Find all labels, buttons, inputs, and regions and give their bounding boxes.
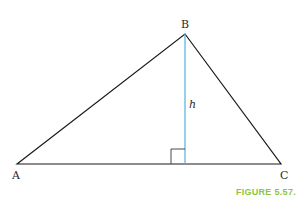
right-angle-marker bbox=[171, 149, 185, 164]
vertex-label-a: A bbox=[11, 169, 21, 182]
altitude-label-h: h bbox=[189, 98, 196, 111]
triangle-diagram: B A C h bbox=[0, 0, 300, 202]
triangle-abc bbox=[17, 34, 281, 164]
figure-caption: FIGURE 5.57. bbox=[236, 187, 296, 197]
vertex-label-c: C bbox=[280, 169, 288, 182]
vertex-label-b: B bbox=[181, 18, 189, 31]
